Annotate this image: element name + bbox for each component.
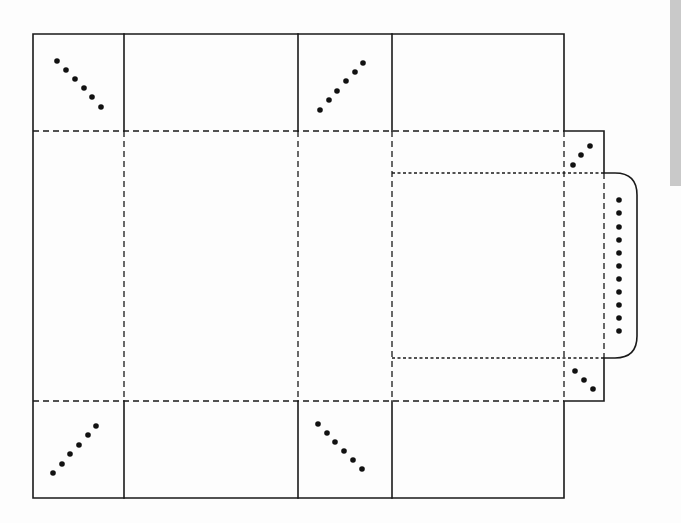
glue-dot-icon <box>616 197 622 203</box>
glue-dot-icon <box>350 457 356 463</box>
glue-dot-icon <box>63 67 69 73</box>
glue-dot-icon <box>616 328 622 334</box>
glue-dot-icon <box>98 104 104 110</box>
glue-dot-icon <box>54 58 60 64</box>
glue-dot-icon <box>326 97 332 103</box>
glue-dot-icon <box>85 432 91 438</box>
glue-markers <box>50 58 622 476</box>
glue-dot-icon <box>50 470 56 476</box>
glue-dot-icon <box>616 250 622 256</box>
glue-dot-icon <box>67 451 73 457</box>
glue-dot-icon <box>590 386 596 392</box>
box-net-diagram <box>0 0 681 523</box>
glue-dot-icon <box>81 85 87 91</box>
glue-dots-top-left-corner-flap <box>54 58 104 110</box>
glue-dot-icon <box>72 76 78 82</box>
glue-dot-icon <box>616 224 622 230</box>
glue-dot-icon <box>616 210 622 216</box>
glue-dot-icon <box>616 289 622 295</box>
glue-dot-icon <box>332 439 338 445</box>
glue-dot-icon <box>315 421 321 427</box>
glue-dots-rounded-flap <box>616 197 622 334</box>
glue-dot-icon <box>616 237 622 243</box>
glue-dot-icon <box>616 302 622 308</box>
glue-dot-icon <box>76 442 82 448</box>
glue-dot-icon <box>352 69 358 75</box>
glue-dot-icon <box>343 78 349 84</box>
glue-dot-icon <box>572 368 578 374</box>
glue-dot-icon <box>616 263 622 269</box>
glue-dot-icon <box>89 94 95 100</box>
glue-dots-top-mid-corner-flap <box>317 60 366 113</box>
glue-dot-icon <box>360 60 366 66</box>
diagram-canvas <box>0 0 681 523</box>
glue-dots-bottom-mid-corner-flap <box>315 421 365 472</box>
glue-dots-top-side-tab <box>570 143 593 168</box>
glue-dot-icon <box>587 143 593 149</box>
glue-dot-icon <box>341 448 347 454</box>
glue-dots-bottom-left-corner-flap <box>50 423 99 476</box>
glue-dot-icon <box>616 315 622 321</box>
glue-dot-icon <box>570 162 576 168</box>
glue-dot-icon <box>334 88 340 94</box>
glue-dot-icon <box>578 152 584 158</box>
glue-dot-icon <box>581 377 587 383</box>
glue-dots-bottom-side-tab <box>572 368 596 392</box>
glue-dot-icon <box>317 107 323 113</box>
glue-dot-icon <box>93 423 99 429</box>
glue-dot-icon <box>616 276 622 282</box>
glue-dot-icon <box>59 461 65 467</box>
fold-lines <box>33 131 604 401</box>
glue-dot-icon <box>324 430 330 436</box>
glue-dot-icon <box>359 466 365 472</box>
